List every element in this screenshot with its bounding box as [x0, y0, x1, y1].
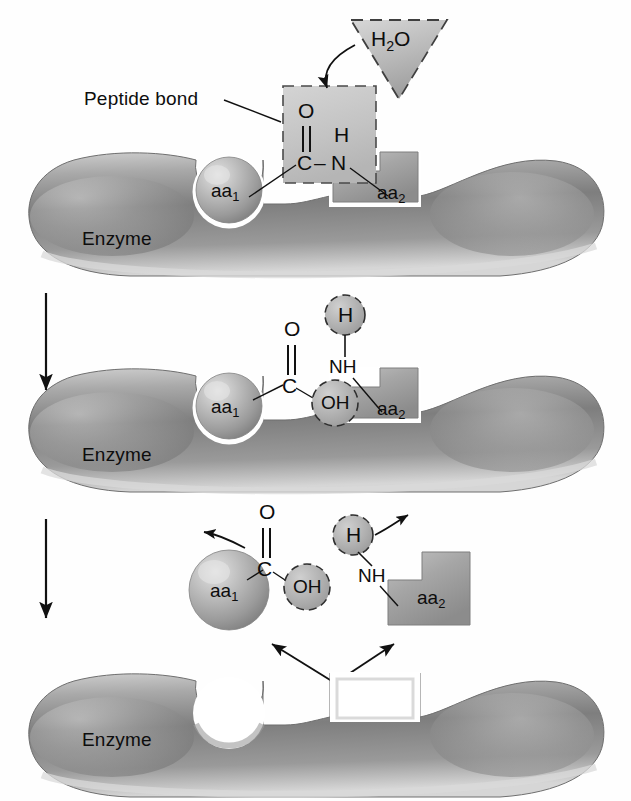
enzyme-empty-slot — [330, 672, 420, 722]
aa1-base-2: aa — [211, 396, 232, 417]
panel-3-artwork — [29, 515, 604, 797]
water-subscript: 2 — [386, 38, 394, 54]
aa2-sub-2: 2 — [398, 407, 405, 422]
hydrogen-label-3: H — [346, 524, 361, 545]
aa2-bond-leader-3 — [380, 586, 398, 606]
aa1-label-3: aa1 — [210, 581, 238, 604]
bond-c-oh-3 — [273, 572, 288, 582]
oh-group-label-2: OH — [321, 393, 350, 412]
bond-c-oh-2 — [296, 388, 313, 398]
enzyme-shading-right-1 — [430, 172, 594, 256]
enzyme-body-2 — [29, 368, 604, 492]
enzyme-label-2: Enzyme — [82, 445, 152, 464]
oh-group-label-3: OH — [293, 577, 322, 596]
aa2-label-3: aa2 — [417, 588, 445, 611]
enzyme-hydrolysis-figure: Peptide bond H2O O C – N H aa1 aa2 Enzym… — [0, 0, 631, 801]
aa2-base-1: aa — [377, 182, 398, 203]
enzyme-label-1: Enzyme — [82, 229, 152, 248]
water-label: H2O — [371, 28, 410, 53]
bond-h-n-3 — [358, 552, 372, 566]
enzyme-shading-right-2 — [430, 388, 594, 472]
enzyme-bottom-rim-3 — [42, 767, 596, 794]
carbon-label-1: C — [297, 152, 312, 173]
peptide-bond-leader — [224, 100, 281, 122]
aa1-sub-2: 1 — [232, 405, 239, 420]
release-arrow-left — [204, 532, 245, 548]
aa1-label-2: aa1 — [211, 397, 239, 420]
aa2-label-1: aa2 — [377, 183, 405, 206]
aa1-sub-1: 1 — [232, 189, 239, 204]
oxygen-label-2: O — [284, 318, 300, 339]
product-arrow-to-aa2 — [335, 644, 394, 683]
release-arrow-right — [375, 515, 408, 535]
enzyme-shading-right-3 — [430, 693, 594, 777]
aa1-bond-leader-1 — [249, 165, 296, 197]
product-arrow-to-aa1 — [272, 644, 335, 683]
carbon-label-3: C — [257, 558, 272, 579]
nh-group-label-3: NH — [358, 566, 385, 585]
water-h: H — [371, 27, 386, 50]
enzyme-socket-shadow — [196, 724, 262, 746]
enzyme-label-3: Enzyme — [82, 730, 152, 749]
oxygen-label-3: O — [259, 501, 275, 522]
nh-group-label-2: NH — [329, 357, 356, 376]
bond-dash-label-1: – — [314, 152, 326, 173]
aa1-sub-3: 1 — [231, 589, 238, 604]
hydrogen-label-2: H — [338, 304, 353, 325]
aa1-base-3: aa — [210, 580, 231, 601]
aa2-base-2: aa — [377, 398, 398, 419]
water-o: O — [394, 27, 410, 50]
enzyme-empty-socket — [193, 677, 265, 749]
enzyme-slot-inner-shade — [337, 679, 413, 718]
aa2-label-2: aa2 — [377, 399, 405, 422]
nitrogen-label-1: N — [331, 152, 346, 173]
oxygen-label-1: O — [298, 100, 314, 121]
carbon-label-2: C — [282, 375, 297, 396]
aa1-label-1: aa1 — [211, 181, 239, 204]
enzyme-bottom-rim-2 — [42, 462, 596, 491]
hydrogen-label-1: H — [334, 124, 349, 145]
enzyme-bottom-rim-1 — [42, 246, 596, 275]
aa1-bond-leader-2 — [253, 385, 283, 400]
water-attack-arrow — [326, 45, 355, 88]
aa2-sub-3: 2 — [438, 596, 445, 611]
peptide-bond-label: Peptide bond — [84, 89, 198, 108]
diagram-artwork — [0, 0, 631, 801]
aa2-sub-1: 2 — [398, 191, 405, 206]
aa1-base-1: aa — [211, 180, 232, 201]
aa2-base-3: aa — [417, 587, 438, 608]
